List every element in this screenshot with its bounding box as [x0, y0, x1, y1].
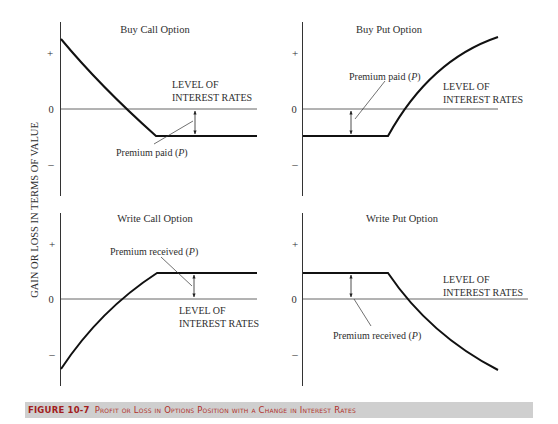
- x-axis-label-line2: INTEREST RATES: [179, 318, 259, 329]
- x-axis-label-line2: INTEREST RATES: [443, 94, 523, 105]
- tick-minus: –: [291, 348, 298, 360]
- tick-zero: 0: [48, 294, 53, 305]
- x-axis-label-line2: INTEREST RATES: [443, 287, 523, 298]
- annotation-text: Premium received (P): [333, 330, 421, 342]
- panel-buy-call: + 0 – Buy Call Option LEVEL OF INTEREST …: [47, 22, 257, 196]
- annotation-leader: [154, 121, 193, 144]
- x-axis-label-line1: LEVEL OF: [443, 81, 490, 92]
- annotation-leader: [355, 81, 385, 119]
- y-axis-label: GAIN OR LOSS IN TERMS OF VALUE: [29, 122, 40, 298]
- tick-plus: +: [292, 47, 298, 59]
- panel-title: Write Put Option: [366, 213, 439, 224]
- figure-caption: FIGURE 10-7 Profit or Loss in Options Po…: [25, 402, 533, 418]
- tick-zero: 0: [291, 294, 296, 305]
- figure-number: FIGURE 10-7: [28, 405, 90, 415]
- annotation-text: Premium paid (P): [116, 147, 188, 159]
- tick-plus: +: [49, 238, 55, 250]
- tick-plus: +: [47, 47, 53, 59]
- payoff-curve: [61, 39, 257, 136]
- panel-buy-put: + 0 – Buy Put Option LEVEL OF INTEREST R…: [291, 22, 523, 196]
- tick-minus: –: [47, 158, 54, 170]
- figure-canvas: GAIN OR LOSS IN TERMS OF VALUE + 0 – Buy…: [0, 0, 558, 424]
- panel-title: Buy Put Option: [356, 24, 423, 35]
- tick-plus: +: [292, 238, 298, 250]
- tick-minus: –: [291, 158, 298, 170]
- panel-title: Write Call Option: [117, 213, 193, 224]
- tick-zero: 0: [48, 104, 53, 115]
- x-axis-label-line2: INTEREST RATES: [172, 92, 252, 103]
- figure-caption-text: Profit or Loss in Options Position with …: [95, 405, 356, 415]
- x-axis-label-line1: LEVEL OF: [172, 79, 219, 90]
- x-axis-label-line1: LEVEL OF: [179, 305, 226, 316]
- tick-minus: –: [48, 348, 55, 360]
- annotation-text: Premium received (P): [110, 246, 198, 258]
- annotation-leader: [161, 257, 192, 286]
- panel-title: Buy Call Option: [120, 24, 190, 35]
- panel-write-call: + 0 – Write Call Option LEVEL OF INTERES…: [48, 213, 259, 386]
- x-axis-label-line1: LEVEL OF: [443, 274, 490, 285]
- panel-write-put: + 0 – Write Put Option LEVEL OF INTEREST…: [291, 213, 528, 386]
- tick-zero: 0: [291, 104, 296, 115]
- annotation-text: Premium paid (P): [349, 71, 421, 83]
- annotation-leader: [354, 299, 371, 326]
